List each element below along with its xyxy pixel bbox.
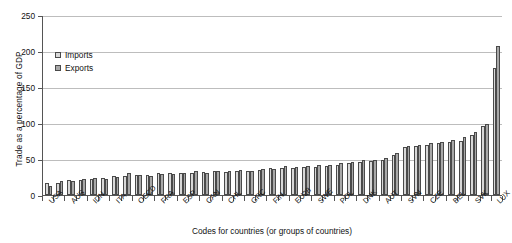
bar-group bbox=[289, 16, 300, 195]
y-axis-tick-label: 100 bbox=[21, 119, 35, 129]
y-axis-tick bbox=[38, 52, 43, 53]
bar-group bbox=[479, 16, 490, 195]
bar-group bbox=[88, 16, 99, 195]
bar-group bbox=[367, 16, 378, 195]
bar-exports bbox=[183, 173, 187, 195]
y-axis-tick bbox=[38, 88, 43, 89]
bar-group bbox=[278, 16, 289, 195]
bar-group bbox=[446, 16, 457, 195]
bars-container bbox=[43, 16, 502, 195]
bar-group bbox=[43, 16, 54, 195]
bar-group bbox=[200, 16, 211, 195]
y-axis-tick-label: 50 bbox=[26, 155, 35, 165]
bar-group bbox=[323, 16, 334, 195]
bar-group bbox=[356, 16, 367, 195]
bar-group bbox=[468, 16, 479, 195]
bar-exports bbox=[496, 46, 500, 195]
bar-exports bbox=[228, 171, 232, 195]
bar-group bbox=[110, 16, 121, 195]
bar-group bbox=[457, 16, 468, 195]
legend-swatch-imports bbox=[55, 52, 61, 58]
bar-group bbox=[435, 16, 446, 195]
bar-group bbox=[77, 16, 88, 195]
bar-group bbox=[65, 16, 76, 195]
bar-group bbox=[491, 16, 502, 195]
bar-exports bbox=[250, 171, 254, 195]
bar-exports bbox=[418, 145, 422, 195]
x-axis-tick-labels: USAAUSIDNITAOECDFRAESPCANCHLGRCFINEU28SW… bbox=[42, 199, 502, 223]
bar-group bbox=[390, 16, 401, 195]
bar-exports bbox=[362, 160, 366, 195]
y-axis-tick bbox=[38, 124, 43, 125]
bar-exports bbox=[463, 137, 467, 195]
bar-group bbox=[188, 16, 199, 195]
bar-group bbox=[121, 16, 132, 195]
y-axis-tick bbox=[38, 16, 43, 17]
bar-group bbox=[312, 16, 323, 195]
bar-group bbox=[334, 16, 345, 195]
y-axis-tick-label: 250 bbox=[21, 11, 35, 21]
bar-exports bbox=[395, 153, 399, 195]
chart-legend: ImportsExports bbox=[55, 50, 93, 76]
bar-exports bbox=[272, 169, 276, 195]
y-axis-tick bbox=[38, 160, 43, 161]
bar-group bbox=[401, 16, 412, 195]
bar-exports bbox=[339, 163, 343, 195]
bar-group bbox=[155, 16, 166, 195]
bar-exports bbox=[485, 124, 489, 195]
bar-exports bbox=[160, 174, 164, 195]
bar-group bbox=[54, 16, 65, 195]
bar-exports bbox=[317, 165, 321, 195]
bar-group bbox=[379, 16, 390, 195]
legend-item-imports: Imports bbox=[55, 50, 93, 60]
bar-group bbox=[166, 16, 177, 195]
bar-group bbox=[244, 16, 255, 195]
bar-exports bbox=[440, 142, 444, 195]
bar-exports bbox=[451, 140, 455, 195]
bar-group bbox=[99, 16, 110, 195]
bar-group bbox=[144, 16, 155, 195]
bar-exports bbox=[105, 179, 109, 195]
bar-group bbox=[133, 16, 144, 195]
bar-group bbox=[222, 16, 233, 195]
bar-group bbox=[267, 16, 278, 195]
plot-area: 050100150200250 bbox=[42, 16, 502, 196]
bar-exports bbox=[384, 158, 388, 195]
legend-label: Exports bbox=[65, 63, 93, 73]
bar-group bbox=[177, 16, 188, 195]
bar-exports bbox=[407, 146, 411, 195]
y-axis-tick-label: 0 bbox=[30, 191, 35, 201]
bar-exports bbox=[284, 166, 288, 195]
x-axis-title: Codes for countries (or groups of countr… bbox=[42, 226, 502, 236]
bar-group bbox=[233, 16, 244, 195]
bar-group bbox=[211, 16, 222, 195]
legend-swatch-exports bbox=[55, 65, 61, 71]
bar-exports bbox=[474, 132, 478, 195]
bar-exports bbox=[295, 167, 299, 195]
bar-group bbox=[345, 16, 356, 195]
bar-exports bbox=[429, 143, 433, 195]
legend-item-exports: Exports bbox=[55, 63, 93, 73]
bar-exports bbox=[127, 173, 131, 195]
bar-group bbox=[423, 16, 434, 195]
legend-label: Imports bbox=[65, 50, 93, 60]
bar-group bbox=[256, 16, 267, 195]
bar-group bbox=[300, 16, 311, 195]
y-axis-tick-label: 200 bbox=[21, 47, 35, 57]
bar-group bbox=[412, 16, 423, 195]
y-axis-tick-label: 150 bbox=[21, 83, 35, 93]
bar-exports bbox=[205, 173, 209, 195]
